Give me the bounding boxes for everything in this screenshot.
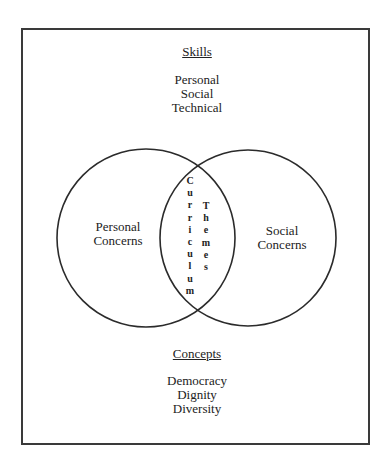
vertical-letter: l: [184, 260, 196, 272]
concepts-heading: Concepts: [150, 347, 244, 361]
vertical-letter: r: [184, 212, 196, 224]
personal-concerns-label: Personal Concerns: [78, 220, 158, 248]
themes-vertical-label: Themes: [200, 200, 212, 273]
vertical-letter: h: [200, 212, 212, 224]
vertical-letter: e: [200, 224, 212, 236]
vertical-letter: e: [200, 249, 212, 261]
vertical-letter: r: [184, 199, 196, 211]
vertical-letter: i: [184, 224, 196, 236]
social-concerns-label: Social Concerns: [242, 224, 322, 252]
vertical-letter: C: [184, 175, 196, 187]
vertical-letter: u: [184, 248, 196, 260]
vertical-letter: m: [200, 237, 212, 249]
concept-item: Democracy: [140, 374, 254, 388]
concept-item: Dignity: [140, 388, 254, 402]
vertical-letter: s: [200, 261, 212, 273]
vertical-letter: c: [184, 236, 196, 248]
concept-item: Diversity: [140, 402, 254, 416]
concepts-list: Democracy Dignity Diversity: [140, 374, 254, 416]
vertical-letter: u: [184, 187, 196, 199]
vertical-letter: m: [184, 285, 196, 297]
curriculum-vertical-label: Curriculum: [184, 175, 196, 297]
vertical-letter: u: [184, 273, 196, 285]
vertical-letter: T: [200, 200, 212, 212]
